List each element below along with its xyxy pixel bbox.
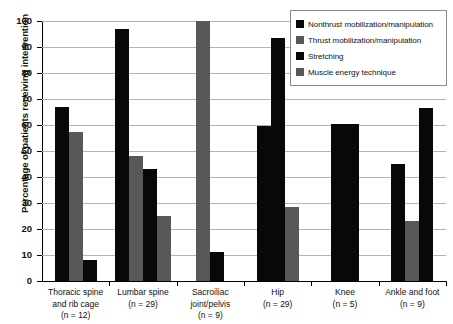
x-axis-label-line: (n = 5) <box>311 299 378 311</box>
bar-knee-nonthrust <box>331 124 345 281</box>
bar-thoracic-spine-and-rib-cage-nonthrust <box>55 107 69 281</box>
x-axis-label-sacroiliac-joint-pelvis: Sacroiliacjoint/pelvis(n = 9) <box>177 287 244 322</box>
x-axis-separator-4 <box>311 281 312 286</box>
legend-swatch-icon <box>296 36 304 44</box>
bar-hip-stretching <box>271 38 285 281</box>
x-axis-label-line: Lumbar spine <box>109 287 176 299</box>
bar-knee-stretching <box>345 124 359 281</box>
legend-item-1: Thrust mobilization/manipulation <box>296 32 442 48</box>
bar-group-lumbar-spine <box>109 21 176 281</box>
x-axis-label-line: (n = 12) <box>42 310 109 322</box>
y-tick-label-30: 30 <box>2 197 32 208</box>
y-tick-label-20: 20 <box>2 223 32 234</box>
bar-group-thoracic-spine-and-rib-cage <box>42 21 109 281</box>
x-axis-label-knee: Knee(n = 5) <box>311 287 378 310</box>
legend-label: Muscle energy technique <box>308 68 396 77</box>
bar-lumbar-spine-stretching <box>143 169 157 281</box>
legend-item-2: Stretching <box>296 48 442 64</box>
x-axis-label-line: (n = 9) <box>177 310 244 322</box>
bar-lumbar-spine-thrust <box>129 156 143 281</box>
bar-group-sacroiliac-joint-pelvis <box>177 21 244 281</box>
x-axis-label-line: Hip <box>244 287 311 299</box>
bar-sacroiliac-joint-pelvis-stretching <box>210 252 224 281</box>
legend-swatch-icon <box>296 20 304 28</box>
chart-legend: Nonthrust mobilization/manipulationThrus… <box>290 10 447 86</box>
bar-lumbar-spine-nonthrust <box>115 29 129 281</box>
y-tick-label-70: 70 <box>2 93 32 104</box>
bar-ankle-and-foot-stretching <box>419 108 433 281</box>
x-axis-label-hip: Hip(n = 29) <box>244 287 311 310</box>
x-axis-label-line: Knee <box>311 287 378 299</box>
legend-item-0: Nonthrust mobilization/manipulation <box>296 16 442 32</box>
y-tick-label-10: 10 <box>2 249 32 260</box>
x-axis-label-line: (n = 29) <box>109 299 176 311</box>
y-tick-label-60: 60 <box>2 119 32 130</box>
y-tick-label-100: 100 <box>2 15 32 26</box>
legend-label: Stretching <box>308 52 344 61</box>
legend-swatch-icon <box>296 52 304 60</box>
bar-chart: Percentage of patients receiving interve… <box>0 0 453 324</box>
y-tick-label-80: 80 <box>2 67 32 78</box>
x-axis-label-line: Sacroiliac <box>177 287 244 299</box>
x-axis-label-line: and rib cage <box>42 299 109 311</box>
y-tick-label-50: 50 <box>2 145 32 156</box>
x-axis-separator-1 <box>109 281 110 286</box>
bar-ankle-and-foot-nonthrust <box>391 164 405 281</box>
bar-lumbar-spine-muscle <box>157 216 171 281</box>
legend-swatch-icon <box>296 68 304 76</box>
y-tick-label-40: 40 <box>2 171 32 182</box>
x-axis-label-ankle-and-foot: Ankle and foot(n = 9) <box>379 287 446 310</box>
bar-ankle-and-foot-thrust <box>405 221 419 281</box>
bar-hip-nonthrust <box>257 126 271 281</box>
x-axis-separator-end <box>446 281 447 286</box>
legend-label: Thrust mobilization/manipulation <box>308 36 421 45</box>
bar-thoracic-spine-and-rib-cage-stretching <box>83 260 97 281</box>
x-axis-label-line: joint/pelvis <box>177 299 244 311</box>
x-axis-separator-2 <box>177 281 178 286</box>
x-axis-label-line: (n = 29) <box>244 299 311 311</box>
bar-hip-muscle <box>285 207 299 281</box>
x-axis-label-line: Ankle and foot <box>379 287 446 299</box>
x-axis-label-lumbar-spine: Lumbar spine(n = 29) <box>109 287 176 310</box>
bar-sacroiliac-joint-pelvis-thrust <box>196 21 210 281</box>
y-tick-label-90: 90 <box>2 41 32 52</box>
legend-label: Nonthrust mobilization/manipulation <box>308 20 433 29</box>
x-axis-label-line: (n = 9) <box>379 299 446 311</box>
x-axis-separator-5 <box>379 281 380 286</box>
x-axis-label-line: Thoracic spine <box>42 287 109 299</box>
legend-item-3: Muscle energy technique <box>296 64 442 80</box>
bar-thoracic-spine-and-rib-cage-thrust <box>69 132 83 282</box>
y-tick-label-0: 0 <box>2 275 32 286</box>
x-axis-label-thoracic-spine-and-rib-cage: Thoracic spineand rib cage(n = 12) <box>42 287 109 322</box>
x-axis-separator-3 <box>244 281 245 286</box>
